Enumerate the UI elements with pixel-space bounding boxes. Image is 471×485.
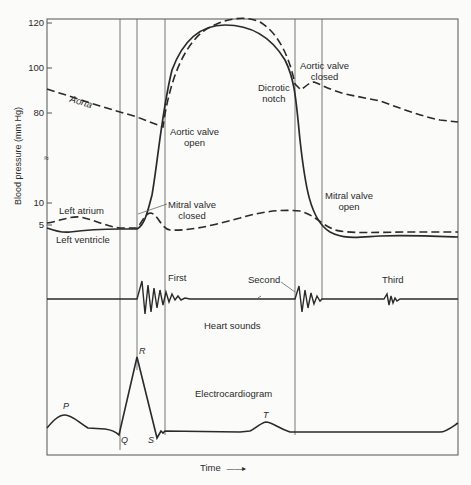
left-ventricle-pressure-trace [47, 25, 458, 237]
left-ventricle-label: Left ventricle [56, 234, 110, 245]
event-lines [120, 19, 322, 450]
y-tick-80: 80 [33, 107, 44, 118]
y-tick-10: 10 [33, 197, 44, 208]
aortic-valve-open-label: Aortic valve open [170, 126, 219, 148]
second-pointer [281, 282, 295, 292]
aorta-pressure-trace [47, 18, 458, 127]
x-axis-label-text: Time [200, 462, 221, 473]
ecg-s-label: S [148, 435, 154, 446]
y-tick-5: 5 [39, 219, 44, 230]
electrocardiogram-label: Electrocardiogram [195, 388, 272, 399]
ecg-q-label: Q [121, 435, 128, 446]
second-sound-label: Second [248, 274, 280, 285]
ecg-r-label: R [139, 346, 146, 357]
heart-sounds-trace [47, 281, 458, 314]
mitral-valve-closed-label: Mitral valve closed [168, 199, 216, 221]
left-atrium-label: Left atrium [59, 205, 104, 216]
stray-mark [258, 296, 261, 298]
third-sound-label: Third [382, 274, 404, 285]
y-tick-120: 120 [28, 17, 44, 28]
first-sound-label: First [168, 272, 186, 283]
x-axis-label: Time ——▸ [200, 462, 246, 474]
y-tick-100: 100 [28, 62, 44, 73]
mitral-closed-pointer [138, 204, 167, 214]
axis-break-icon: ≈ [44, 153, 49, 164]
dicrotic-notch-label: Dicrotic notch [258, 82, 290, 104]
ecg-t-label: T [263, 410, 269, 421]
ecg-p-label: P [63, 401, 69, 412]
arrow-right-icon: ——▸ [226, 464, 246, 473]
mitral-valve-open-label: Mitral valve open [325, 190, 373, 212]
aortic-valve-closed-label: Aortic valve closed [300, 60, 349, 82]
heart-sounds-label: Heart sounds [204, 320, 261, 331]
y-tick-labels: 120 100 80 10 5 [0, 0, 44, 485]
y-axis-ticks [47, 23, 52, 225]
